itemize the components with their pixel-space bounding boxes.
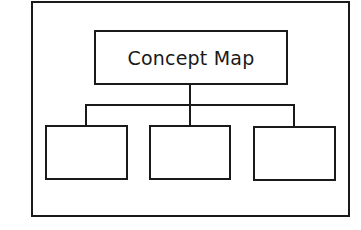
child-node-2: [149, 125, 231, 180]
right-branch-connector: [293, 104, 295, 127]
child-node-1-label: [47, 127, 126, 178]
child-node-3: [253, 126, 336, 181]
left-branch-connector: [85, 104, 87, 126]
child-node-2-label: [151, 127, 229, 178]
child-node-3-label: [255, 128, 334, 179]
root-node: Concept Map: [94, 30, 288, 85]
child-node-1: [45, 125, 128, 180]
root-node-label: Concept Map: [96, 32, 286, 83]
branch-connector-horizontal: [85, 104, 295, 106]
